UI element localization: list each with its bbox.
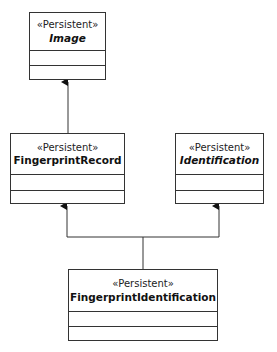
class-name: FingerprintIdentification [70, 291, 216, 303]
operations-compartment [69, 327, 217, 340]
class-name: FingerprintRecord [13, 154, 121, 166]
attributes-compartment [176, 175, 263, 191]
stereotype-label: «Persistent» [37, 142, 99, 154]
class-name: Image [49, 32, 86, 44]
attributes-compartment [30, 51, 105, 66]
class-identification[interactable]: «Persistent» Identification [175, 133, 264, 204]
class-header: «Persistent» Image [30, 13, 105, 51]
operations-compartment [11, 191, 124, 203]
operations-compartment [176, 191, 263, 203]
stereotype-label: «Persistent» [189, 142, 251, 154]
generalization-fingerprintidentification-to-parents [67, 206, 219, 269]
stereotype-label: «Persistent» [37, 19, 99, 31]
attributes-compartment [11, 175, 124, 191]
uml-diagram-canvas: «Persistent» Image «Persistent» Fingerpr… [0, 0, 277, 352]
class-image[interactable]: «Persistent» Image [29, 12, 106, 80]
class-header: «Persistent» Identification [176, 134, 263, 175]
class-fingerprintidentification[interactable]: «Persistent» FingerprintIdentification [68, 269, 218, 341]
class-fingerprintrecord[interactable]: «Persistent» FingerprintRecord [10, 133, 125, 204]
class-header: «Persistent» FingerprintRecord [11, 134, 124, 175]
class-header: «Persistent» FingerprintIdentification [69, 270, 217, 312]
class-name: Identification [180, 154, 260, 166]
stereotype-label: «Persistent» [112, 278, 174, 290]
attributes-compartment [69, 312, 217, 327]
operations-compartment [30, 66, 105, 79]
